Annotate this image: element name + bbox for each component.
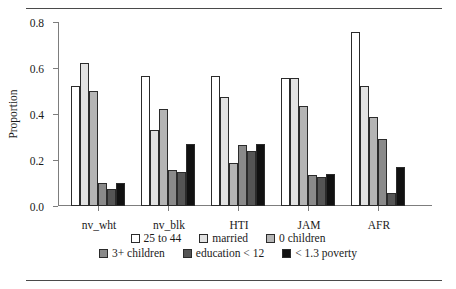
bar	[308, 175, 317, 206]
bar	[177, 172, 186, 207]
bar	[360, 86, 369, 206]
chart-legend: 25 to 44married0 children3+ childreneduc…	[0, 232, 456, 259]
legend-label: 25 to 44	[144, 232, 182, 244]
legend-item[interactable]: 25 to 44	[131, 232, 182, 244]
bar	[159, 109, 168, 206]
bar	[238, 145, 247, 206]
legend-swatch-icon	[199, 234, 208, 243]
x-tick: JAM	[308, 206, 309, 211]
bar	[107, 189, 116, 206]
legend-swatch-icon	[131, 234, 140, 243]
legend-swatch-icon	[183, 249, 192, 258]
legend-row: 25 to 44married0 children	[122, 232, 335, 244]
plot-area: 0.00.20.40.60.8 nv_whtnv_blkHTIJAMAFR	[58, 22, 430, 206]
legend-swatch-icon	[266, 234, 275, 243]
legend-item[interactable]: married	[199, 232, 248, 244]
bar	[387, 193, 396, 206]
y-axis-label: Proportion	[6, 22, 20, 206]
legend-swatch-icon	[282, 249, 291, 258]
legend-label: < 1.3 poverty	[295, 247, 357, 259]
bar	[150, 130, 159, 206]
legend-item[interactable]: < 1.3 poverty	[282, 247, 357, 259]
bar	[281, 78, 290, 206]
bar	[290, 78, 299, 206]
bar	[326, 174, 335, 206]
y-tick: 0.8	[53, 22, 58, 23]
x-tick: nv_blk	[168, 206, 169, 211]
y-tick-label: 0.8	[30, 17, 44, 29]
bar	[116, 183, 125, 206]
bottom-divider-rule	[26, 280, 442, 281]
y-tick: 0.6	[53, 68, 58, 69]
bar	[211, 76, 220, 206]
x-tick-label: AFR	[368, 219, 390, 231]
bar	[351, 32, 360, 206]
bar	[98, 183, 107, 206]
y-tick-label: 0.6	[30, 63, 44, 75]
chart-page: { "chart_data": { "type": "bar", "title"…	[0, 0, 456, 289]
bar	[220, 97, 229, 206]
bar	[168, 170, 177, 206]
y-tick: 0.0	[53, 206, 58, 207]
y-tick-label: 0.4	[30, 109, 44, 121]
legend-item[interactable]: 0 children	[266, 232, 325, 244]
legend-swatch-icon	[99, 249, 108, 258]
x-tick-label: HTI	[229, 219, 248, 231]
bar	[369, 117, 378, 206]
legend-item[interactable]: education < 12	[183, 247, 264, 259]
x-tick-label: nv_blk	[153, 219, 185, 231]
bar	[186, 144, 195, 206]
bar	[256, 144, 265, 206]
bar	[247, 151, 256, 206]
legend-label: education < 12	[196, 247, 264, 259]
top-divider-rule	[26, 8, 442, 9]
bar	[229, 163, 238, 206]
legend-row: 3+ childreneducation < 12< 1.3 poverty	[90, 247, 366, 259]
bar	[141, 76, 150, 206]
bar	[299, 106, 308, 206]
bar	[378, 139, 387, 206]
y-tick-label: 0.2	[30, 155, 44, 167]
x-tick: AFR	[378, 206, 379, 211]
legend-label: 3+ children	[112, 247, 165, 259]
legend-label: married	[212, 232, 248, 244]
legend-label: 0 children	[279, 232, 325, 244]
y-tick: 0.2	[53, 160, 58, 161]
y-axis-label-text: Proportion	[7, 89, 19, 138]
y-tick: 0.4	[53, 114, 58, 115]
bar	[89, 91, 98, 206]
x-tick: nv_wht	[98, 206, 99, 211]
x-tick-label: JAM	[297, 219, 320, 231]
y-tick-label: 0.0	[30, 201, 44, 213]
y-axis-line	[58, 22, 59, 206]
x-tick: HTI	[238, 206, 239, 211]
bar	[317, 177, 326, 206]
bar	[80, 63, 89, 206]
bar	[396, 167, 405, 206]
legend-item[interactable]: 3+ children	[99, 247, 165, 259]
x-tick-label: nv_wht	[82, 219, 117, 231]
bar	[71, 86, 80, 206]
